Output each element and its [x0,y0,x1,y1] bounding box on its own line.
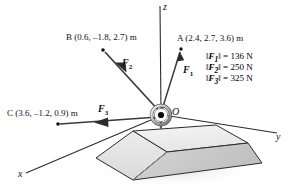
point-label-a: A (2.4, 2.7, 3.6) m [177,34,243,43]
force-label-f1-subscript: 1 [190,70,194,78]
axis-label-y: y [276,132,280,142]
legend-row-f3: ‖F3‖ = 325 N [206,73,253,84]
origin-label: O [172,107,179,117]
force-label-f2-symbol: F [122,57,129,68]
force-label-f1: F1 [183,65,193,78]
force-label-f2: F2 [122,58,132,71]
force-magnitude-legend: ‖F1‖ = 136 N ‖F2‖ = 250 N ‖F3‖ = 325 N [206,51,253,84]
eyebolt-ring-icon [152,106,171,125]
force-vector-f1 [161,47,184,113]
diagram-canvas [0,0,290,190]
legend-equals-f3: = [223,73,228,83]
legend-unit-f1: N [246,51,253,61]
axis-label-z: z [163,2,167,12]
legend-equals-f2: = [223,62,228,72]
legend-row-f1: ‖F1‖ = 136 N [206,51,253,62]
axis-label-x: x [18,169,22,179]
legend-value-f3: 325 [230,73,244,83]
legend-value-f2: 250 [230,62,244,72]
point-label-b: B (0.6, –1.8, 2.7) m [66,33,137,42]
statics-force-diagram: A (2.4, 2.7, 3.6) m B (0.6, –1.8, 2.7) m… [0,0,290,190]
legend-value-f1: 136 [230,51,244,61]
norm-bars-close-f1: ‖ [218,51,221,61]
legend-unit-f3: N [246,73,253,83]
norm-bars-close-f3: ‖ [218,73,221,83]
norm-bars-close-f2: ‖ [218,62,221,72]
force-label-f3: F3 [98,104,108,117]
force-label-f2-subscript: 2 [129,63,133,71]
force-label-f3-subscript: 3 [105,109,109,117]
legend-unit-f2: N [246,62,253,72]
axis-z [160,6,161,112]
force-label-f3-symbol: F [98,103,105,114]
point-label-c: C (3.6, –1.2, 0.9) m [7,109,78,118]
force-vector-f3 [56,117,158,127]
legend-row-f2: ‖F2‖ = 250 N [206,62,253,73]
force-label-f1-symbol: F [183,64,190,75]
legend-equals-f1: = [223,51,228,61]
